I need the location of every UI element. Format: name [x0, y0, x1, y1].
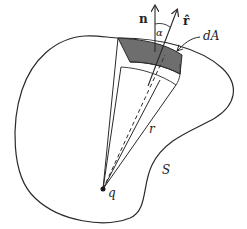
normal-label: n: [139, 12, 148, 26]
area-element-label: dA: [203, 29, 220, 43]
radial-unit-label: r̂: [183, 14, 190, 28]
radius-dashed-line: [103, 55, 165, 189]
charge-label: q: [108, 186, 116, 200]
cone-line-2: [103, 67, 121, 189]
charge-point: [101, 187, 106, 192]
gauss-diagram: n r̂ α dA r S q: [0, 0, 247, 229]
area-element-patch: [118, 38, 182, 74]
cap-arc-lower: [121, 67, 176, 85]
angle-label: α: [156, 27, 163, 38]
surface-label: S: [162, 163, 170, 177]
cone-line-1: [103, 38, 118, 189]
radius-label: r: [149, 122, 156, 136]
closed-surface-outline: [15, 36, 233, 223]
